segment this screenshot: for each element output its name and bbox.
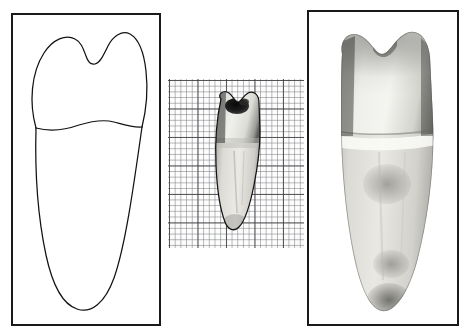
crown-outline-path <box>32 33 147 128</box>
cervical-band <box>204 138 266 148</box>
root-outline-path <box>36 127 142 310</box>
dental-anatomy-figure <box>0 0 469 335</box>
crown-mesial-shadow <box>341 36 355 136</box>
cervical-line-path <box>36 121 142 131</box>
specimen-body <box>204 85 266 237</box>
schematic-line-drawing-panel <box>11 13 161 326</box>
enlarged-photograph-panel <box>307 10 459 326</box>
middle-tooth-specimen <box>204 85 266 237</box>
line-drawing-svg <box>13 15 159 324</box>
root-stain-lower <box>373 250 409 278</box>
root-apex-stain <box>367 283 411 317</box>
occlusal-cavity-extension <box>239 99 249 106</box>
graph-paper-specimen-panel <box>168 79 304 248</box>
enlarged-photograph-svg <box>309 12 457 324</box>
tooth-photograph-body <box>309 12 457 324</box>
occlusal-shading <box>309 26 457 96</box>
